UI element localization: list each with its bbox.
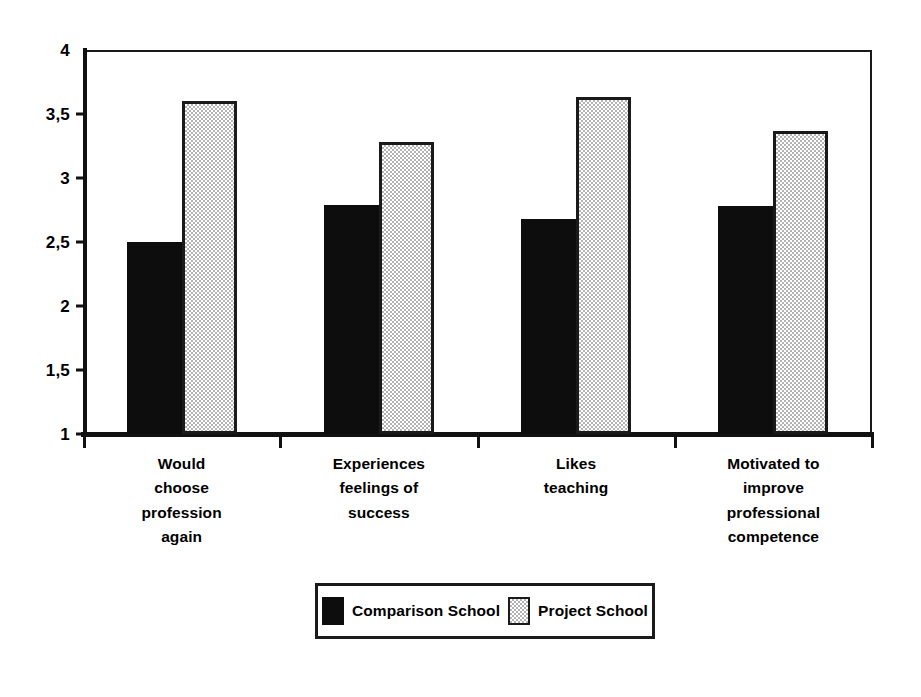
category-label-line: teaching xyxy=(478,476,675,500)
bar-comparison-school xyxy=(324,205,379,434)
bar-chart: 11,522,533,54 Wouldchooseprofessionagain… xyxy=(0,0,921,697)
category-label-line: success xyxy=(280,501,477,525)
y-axis-tick-mark xyxy=(76,305,85,308)
bar-project-school xyxy=(773,131,828,434)
category-label-line: Would xyxy=(83,452,280,476)
legend-entry-comparison-school: Comparison School xyxy=(322,597,500,625)
y-axis-tick-mark xyxy=(76,177,85,180)
legend-label-project-school: Project School xyxy=(538,602,648,620)
legend-entry-project-school: Project School xyxy=(508,597,648,625)
legend-swatch-comparison-school xyxy=(322,597,344,625)
bar-project-school xyxy=(576,97,631,434)
category-label-line: feelings of xyxy=(280,476,477,500)
category-label-line: Experiences xyxy=(280,452,477,476)
bar-comparison-school xyxy=(127,242,182,434)
bar-comparison-school xyxy=(718,206,773,434)
bar-project-school xyxy=(379,142,434,434)
x-axis-category-label: Experiencesfeelings ofsuccess xyxy=(280,452,477,525)
category-label-line: professional xyxy=(675,501,872,525)
x-axis-category-label: Wouldchooseprofessionagain xyxy=(83,452,280,550)
category-label-line: Motivated to xyxy=(675,452,872,476)
category-label-line: Likes xyxy=(478,452,675,476)
category-label-line: improve xyxy=(675,476,872,500)
category-label-line: competence xyxy=(675,525,872,549)
y-axis-tick-mark xyxy=(76,241,85,244)
legend-label-comparison-school: Comparison School xyxy=(352,602,500,620)
category-label-line: again xyxy=(83,525,280,549)
category-label-line: profession xyxy=(83,501,280,525)
bar-project-school xyxy=(182,101,237,434)
chart-legend: Comparison School Project School xyxy=(315,583,655,639)
bar-comparison-school xyxy=(521,219,576,434)
x-axis-category-label: Likesteaching xyxy=(478,452,675,501)
y-axis-tick-mark xyxy=(76,113,85,116)
legend-swatch-project-school xyxy=(508,597,530,625)
x-axis-category-label: Motivated toimproveprofessionalcompetenc… xyxy=(675,452,872,550)
y-axis-tick-mark xyxy=(76,369,85,372)
y-axis-tick-mark xyxy=(76,433,85,436)
category-label-line: choose xyxy=(83,476,280,500)
